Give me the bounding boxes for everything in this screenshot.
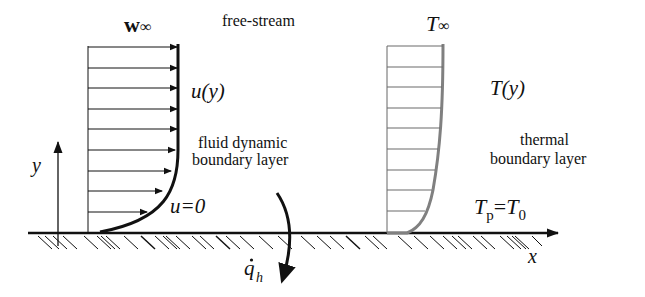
label-y-axis: y xyxy=(30,154,41,177)
label-w-infinity: w∞ xyxy=(124,12,151,37)
label-q-h: q h xyxy=(244,256,263,285)
label-u-zero: u=0 xyxy=(170,194,206,218)
velocity-arrows xyxy=(88,47,177,212)
boundary-layer-diagram: w∞ free-stream u(y) fluid dynamic bounda… xyxy=(0,0,645,297)
label-thermal-bl-line2: boundary layer xyxy=(490,150,587,168)
label-t-infinity: T∞ xyxy=(426,11,450,36)
label-x-axis: x xyxy=(527,245,537,267)
label-fluid-bl-line2: boundary layer xyxy=(192,151,289,169)
label-free-stream: free-stream xyxy=(222,12,295,29)
label-thermal-bl-line1: thermal xyxy=(520,131,569,148)
label-tp-equals-t0: Tp=T0 xyxy=(474,194,526,223)
velocity-profile-curve xyxy=(100,44,178,232)
svg-text:q: q xyxy=(244,256,255,280)
label-fluid-bl-line1: fluid dynamic xyxy=(198,134,287,152)
velocity-profile xyxy=(88,44,178,233)
label-u-y: u(y) xyxy=(191,79,225,103)
heat-flux-arrow xyxy=(277,193,290,278)
temperature-profile xyxy=(387,44,443,233)
q-h-dot xyxy=(250,258,253,261)
label-t-y: T(y) xyxy=(490,76,525,100)
temperature-profile-curve xyxy=(387,44,443,233)
svg-text:h: h xyxy=(256,270,263,285)
